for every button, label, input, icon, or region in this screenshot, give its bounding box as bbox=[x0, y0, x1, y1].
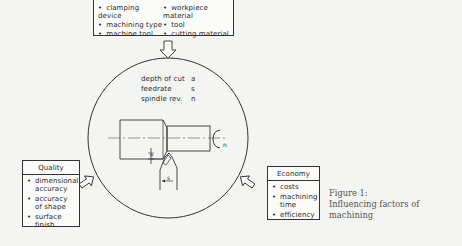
quality-title: Quality bbox=[23, 161, 79, 175]
caption-figure-number: Figure 1: bbox=[329, 188, 419, 199]
quality-arrow-icon bbox=[77, 172, 97, 191]
rotation-symbol-label: n bbox=[223, 141, 227, 149]
parameter-list: depth of cut a feedrate s spindle rev. n bbox=[141, 75, 203, 103]
quality-item: •dimensional accuracy bbox=[27, 177, 76, 193]
economy-item: •costs bbox=[272, 183, 316, 191]
quality-item: •surface finish bbox=[27, 213, 76, 229]
workpiece-large-section bbox=[120, 120, 167, 159]
depth-symbol-label: a bbox=[147, 153, 155, 156]
quality-box: Quality •dimensional accuracy •accuracy … bbox=[22, 160, 80, 227]
param-feedrate-symbol: s bbox=[191, 85, 203, 93]
down-arrow-icon bbox=[160, 41, 176, 58]
param-depth-of-cut: depth of cut bbox=[141, 75, 191, 83]
workpiece-small-section bbox=[167, 126, 210, 151]
economy-item: •efficiency bbox=[272, 211, 316, 219]
caption-title-line2: machining bbox=[329, 210, 419, 221]
rotation-arrow-icon bbox=[213, 130, 220, 148]
figure-caption: Figure 1: Influencing factors of machini… bbox=[329, 188, 419, 221]
economy-title: Economy bbox=[268, 167, 319, 181]
param-spindle-rev: spindle rev. bbox=[141, 95, 191, 103]
param-depth-symbol: a bbox=[191, 75, 203, 83]
quality-item: •accuracy of shape bbox=[27, 195, 76, 211]
param-feedrate: feedrate bbox=[141, 85, 191, 93]
economy-arrow-icon bbox=[237, 172, 257, 191]
economy-item: •machining time bbox=[272, 193, 316, 209]
param-spindle-symbol: n bbox=[191, 95, 203, 103]
economy-box: Economy •costs •machining time •efficien… bbox=[267, 166, 320, 220]
feed-symbol-label: s bbox=[167, 174, 170, 182]
caption-title-line1: Influencing factors of bbox=[329, 199, 419, 210]
